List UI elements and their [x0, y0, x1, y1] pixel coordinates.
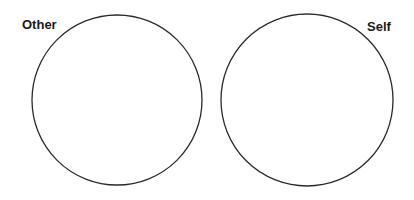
self-label: Self [367, 20, 391, 33]
circles-canvas [0, 0, 414, 200]
other-label: Other [22, 18, 57, 31]
self-circle [221, 14, 393, 186]
other-circle [32, 15, 202, 185]
circle-diagram: Other Self [0, 0, 414, 200]
